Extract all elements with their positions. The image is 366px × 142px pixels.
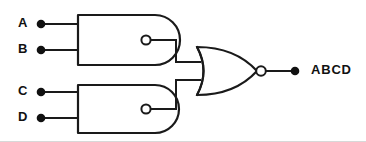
nor-gate-output[interactable]: [197, 47, 266, 95]
input-label-c: C: [18, 83, 28, 98]
input-wires: [41, 24, 78, 118]
nor-inversion-bubble-icon: [256, 66, 266, 76]
input-label-a: A: [18, 15, 28, 30]
terminal-dot-c-icon[interactable]: [37, 88, 46, 97]
terminal-dot-output-icon[interactable]: [291, 67, 300, 76]
input-label-b: B: [18, 41, 28, 56]
input-label-d: D: [18, 109, 28, 124]
nand-top-inversion-bubble-icon: [141, 35, 150, 44]
nor-gate-body: [197, 47, 257, 95]
terminal-dot-a-icon[interactable]: [37, 20, 46, 29]
canvas-bottom-border: [0, 141, 366, 142]
output-label: ABCD: [311, 62, 352, 77]
nand-bottom-inversion-bubble-icon: [141, 104, 150, 113]
terminal-dot-d-icon[interactable]: [37, 114, 46, 123]
logic-circuit-svg: A B C D ABCD: [0, 0, 366, 142]
terminal-dot-b-icon[interactable]: [37, 46, 46, 55]
circuit-diagram-canvas: A B C D ABCD: [0, 0, 366, 142]
